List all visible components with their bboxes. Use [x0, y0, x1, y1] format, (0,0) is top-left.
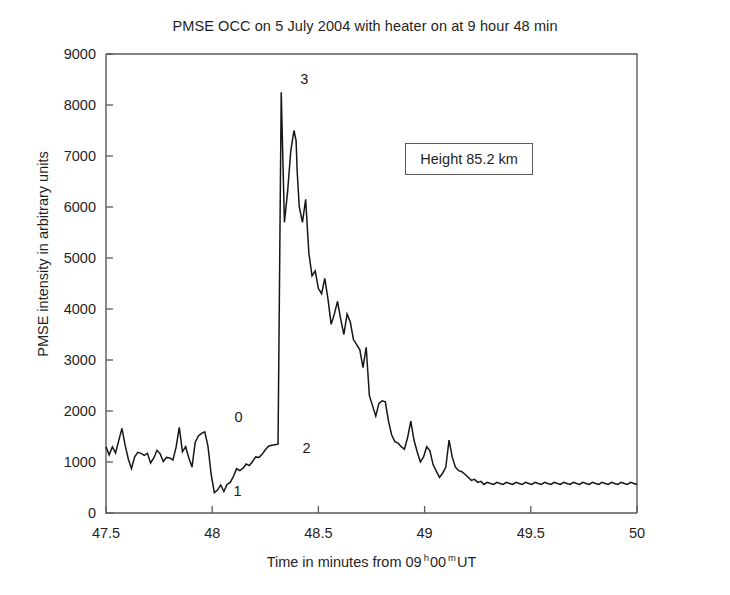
y-tick-label: 6000 [64, 199, 96, 215]
x-tick-label: 50 [629, 525, 645, 541]
y-tick-label: 8000 [64, 97, 96, 113]
point-marker-label-1: 1 [233, 483, 241, 499]
point-marker-label-3: 3 [300, 71, 308, 87]
x-tick-label: 48.5 [304, 525, 332, 541]
x-tick-label: 47.5 [92, 525, 120, 541]
point-marker-label-0: 0 [235, 409, 243, 425]
x-tick-label: 48 [204, 525, 220, 541]
y-tick-label: 7000 [64, 148, 96, 164]
pmse-chart-figure: PMSE OCC on 5 July 2004 with heater on a… [0, 0, 730, 595]
axis-frame [106, 54, 637, 513]
y-tick-label: 2000 [64, 403, 96, 419]
point-marker-label-2: 2 [302, 440, 310, 456]
height-annotation-box: Height 85.2 km [405, 143, 533, 175]
x-tick-label: 49.5 [517, 525, 545, 541]
x-tick-label: 49 [417, 525, 433, 541]
y-tick-label: 3000 [64, 352, 96, 368]
point-labels: 0123 [233, 71, 310, 500]
x-axis-ticks: 47.54848.54949.550 [92, 506, 645, 541]
y-tick-label: 9000 [64, 46, 96, 62]
y-tick-label: 4000 [64, 301, 96, 317]
pmse-intensity-line [106, 92, 637, 492]
y-tick-label: 1000 [64, 454, 96, 470]
y-tick-label: 5000 [64, 250, 96, 266]
plot-area: 0100020003000400050006000700080009000 47… [0, 0, 730, 595]
y-tick-label: 0 [88, 505, 96, 521]
